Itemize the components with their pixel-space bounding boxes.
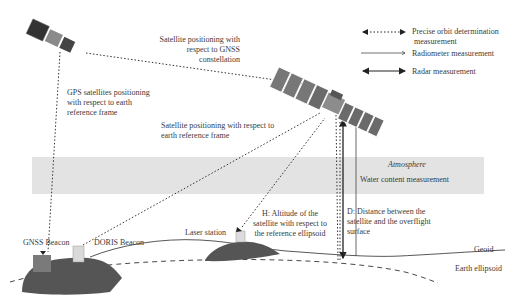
legend-radiometer-label: Radiometer measurement <box>412 49 494 59</box>
label-altitude-line3: the reference ellipsoid <box>250 229 330 239</box>
label-distance-line1: D: Distance between the <box>347 207 431 217</box>
gps-satellite-icon <box>26 19 76 54</box>
label-gps-line1: GPS satellites positioning <box>67 88 150 98</box>
label-distance-line2: satellite and the overflight <box>347 217 431 227</box>
gnss-beacon-arrowhead <box>40 251 46 255</box>
legend-orbit-line2: measurement <box>412 37 499 47</box>
label-satellite-gnss-line1: Satellite positioning with <box>150 35 240 45</box>
legend-orbit-line1: Precise orbit determination <box>412 27 499 37</box>
label-laser-station: Laser station <box>185 228 226 238</box>
label-gps-positioning: GPS satellites positioning with respect … <box>67 88 150 118</box>
gnss-beacon-box <box>33 255 51 272</box>
label-gps-line3: reference frame <box>67 108 150 118</box>
label-satellite-earth: Satellite positioning with respect to ea… <box>161 121 274 141</box>
doris-beacon-box <box>73 246 84 262</box>
label-satellite-gnss-line3: constellation <box>150 55 240 65</box>
label-altitude-line1: H: Altitude of the <box>250 209 330 219</box>
label-earth-ellipsoid: Earth ellipsoid <box>455 264 502 274</box>
label-atmosphere: Atmosphere <box>388 160 426 170</box>
label-altitude-line2: satellite with respect to <box>250 219 330 229</box>
label-satellite-gnss: Satellite positioning with respect to GN… <box>150 35 240 65</box>
altimetry-satellite-icon <box>270 65 387 137</box>
label-water-content: Water content measurement <box>360 175 449 185</box>
land-mass-middle <box>205 242 280 261</box>
label-distance: D: Distance between the satellite and th… <box>347 207 431 237</box>
label-satellite-earth-line1: Satellite positioning with respect to <box>161 121 274 131</box>
legend-orbit-label: Precise orbit determination measurement <box>412 27 499 47</box>
label-distance-line3: surface <box>347 227 431 237</box>
label-satellite-gnss-line2: respect to GNSS <box>150 45 240 55</box>
label-gnss-beacon: GNSS Beacon <box>23 238 69 248</box>
label-gps-line2: with respect to earth <box>67 98 150 108</box>
label-doris-beacon: DORIS Beacon <box>94 238 144 248</box>
label-geoid: Geoid <box>474 245 494 255</box>
label-satellite-earth-line2: earth reference frame <box>161 131 274 141</box>
legend-radar-label: Radar measurement <box>412 67 476 77</box>
geoid-curve <box>90 240 505 257</box>
laser-station-box <box>236 231 245 242</box>
label-altitude: H: Altitude of the satellite with respec… <box>250 209 330 239</box>
